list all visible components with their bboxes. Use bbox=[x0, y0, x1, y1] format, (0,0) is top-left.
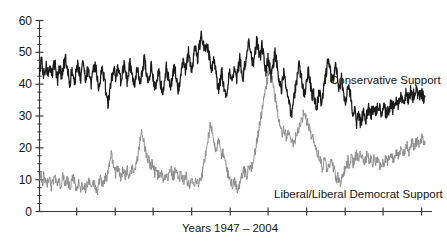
series-label-conservative: Conservative Support bbox=[330, 74, 441, 87]
support-trend-chart: 0102030405060 Conservative Support Liber… bbox=[0, 0, 447, 242]
y-tick-label-10: 10 bbox=[0, 174, 32, 186]
chart-series-group bbox=[40, 31, 426, 195]
y-tick-label-40: 40 bbox=[0, 78, 32, 90]
y-tick-label-50: 50 bbox=[0, 46, 32, 58]
y-tick-label-0: 0 bbox=[0, 206, 32, 218]
y-tick-label-60: 60 bbox=[0, 15, 32, 27]
y-tick-label-20: 20 bbox=[0, 142, 32, 154]
chart-plot-area bbox=[0, 0, 447, 242]
y-tick-label-30: 30 bbox=[0, 110, 32, 122]
x-axis-title: Years 1947 – 2004 bbox=[160, 222, 300, 235]
series-label-liberal: Liberal/Liberal Democrat Support bbox=[274, 188, 443, 201]
